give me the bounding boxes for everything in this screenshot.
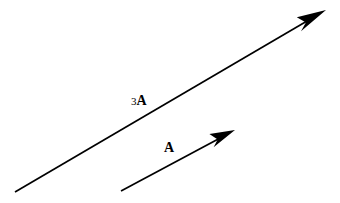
short-vector-arrow xyxy=(121,130,235,191)
vector-diagram-canvas: 3A A xyxy=(0,0,340,203)
short-vector-label: A xyxy=(164,139,174,155)
long-vector-arrowhead xyxy=(297,10,326,31)
long-vector-label: 3A xyxy=(131,92,147,108)
short-vector-label-symbol: A xyxy=(164,140,174,155)
vector-diagram-svg xyxy=(0,0,340,203)
long-vector-shaft xyxy=(15,19,311,192)
short-vector-arrowhead xyxy=(209,130,235,147)
long-vector-label-symbol: A xyxy=(137,93,147,108)
